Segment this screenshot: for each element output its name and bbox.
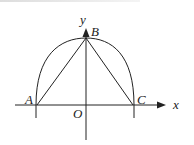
point-b-label: B: [91, 24, 99, 39]
origin-label: O: [73, 106, 83, 121]
x-axis-arrow-icon: [157, 102, 166, 109]
y-axis-label: y: [78, 12, 86, 27]
diagram-canvas: y B A C x O: [0, 0, 194, 145]
point-a-label: A: [24, 92, 33, 107]
geometry-figure: y B A C x O: [0, 0, 194, 145]
point-c-label: C: [137, 92, 146, 107]
segment-ab: [37, 38, 86, 105]
segment-bc: [86, 38, 133, 105]
x-axis-label: x: [172, 97, 179, 112]
arch-curve: [36, 38, 134, 118]
y-axis-arrow-icon: [83, 28, 90, 37]
